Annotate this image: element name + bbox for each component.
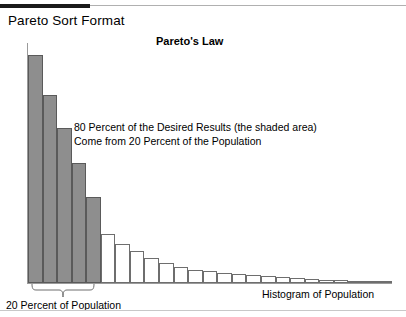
population-brace-icon [31, 284, 95, 298]
histogram-bar [363, 281, 378, 283]
pareto-chart [0, 0, 406, 317]
annotation-line-1: 80 Percent of the Desired Results (the s… [74, 120, 317, 134]
histogram-bar [348, 281, 363, 283]
histogram-bar [101, 234, 116, 283]
histogram-bar [144, 258, 159, 283]
histogram-bar [188, 270, 203, 283]
histogram-bar [217, 273, 232, 283]
histogram-bar [334, 280, 349, 283]
histogram-bar [261, 276, 276, 283]
histogram-bar [232, 274, 247, 283]
chart-annotation: 80 Percent of the Desired Results (the s… [74, 120, 317, 148]
histogram-bar [57, 128, 72, 283]
histogram-bar [377, 281, 392, 283]
histogram-bar [305, 279, 320, 283]
histogram-bar [159, 263, 174, 283]
histogram-bar [319, 280, 334, 283]
histogram-bar [203, 271, 218, 283]
histogram-bar [130, 251, 145, 283]
x-axis-label-right: Histogram of Population [262, 288, 374, 300]
histogram-bar [28, 55, 43, 283]
histogram-bar [43, 95, 58, 283]
chart-title: Pareto's Law [156, 35, 223, 47]
annotation-line-2: Come from 20 Percent of the Population [74, 134, 317, 148]
page-canvas: Pareto Sort Format Pareto's Law 80 Perce… [0, 0, 406, 317]
histogram-bar [290, 278, 305, 283]
footer-rule [0, 310, 406, 311]
histogram-bar [86, 197, 101, 283]
histogram-bar [174, 267, 189, 283]
histogram-bar [246, 275, 261, 283]
histogram-bar [115, 244, 130, 283]
histogram-bar [276, 277, 291, 283]
histogram-bar [72, 163, 87, 283]
